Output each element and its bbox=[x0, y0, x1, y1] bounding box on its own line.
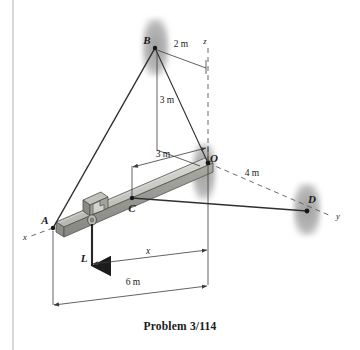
dim-3m-beam-label: 3 m bbox=[156, 149, 171, 159]
axis-label-z: z bbox=[202, 36, 207, 46]
dim-6m-line bbox=[54, 286, 207, 305]
point-label-d: D bbox=[307, 193, 316, 205]
coordinate-axes bbox=[31, 48, 331, 236]
point-c-marker bbox=[130, 196, 134, 200]
beam-top-face bbox=[56, 158, 213, 227]
axis-label-x: x bbox=[22, 232, 27, 242]
point-label-o: O bbox=[210, 152, 218, 164]
dim-x-label: x bbox=[145, 246, 151, 256]
wall-patch-group bbox=[142, 18, 321, 236]
hook-pulley-hub bbox=[90, 218, 93, 222]
load-label: L bbox=[80, 252, 88, 264]
point-a-marker bbox=[51, 226, 55, 230]
axis-x-line bbox=[31, 228, 53, 236]
cable-b-to-o bbox=[155, 48, 208, 163]
point-d-marker bbox=[305, 209, 310, 214]
dim-6m-group bbox=[53, 231, 208, 305]
dim-4m-label: 4 m bbox=[245, 168, 260, 178]
axis-label-y: y bbox=[335, 211, 340, 221]
dim-2m-label: 2 m bbox=[174, 39, 189, 49]
point-label-c: C bbox=[128, 202, 136, 214]
point-b-marker bbox=[153, 46, 157, 50]
point-label-a: A bbox=[40, 214, 48, 226]
dim-6m-label: 6 m bbox=[126, 277, 141, 287]
problem-figure: 2 m 3 m 3 m 4 m x 6 m A B C D O L x y z bbox=[0, 0, 360, 350]
figure-caption: Problem 3/114 bbox=[0, 320, 360, 332]
cable-c-to-d bbox=[132, 198, 307, 211]
point-label-b: B bbox=[142, 34, 150, 46]
dim-3m-vertical-label: 3 m bbox=[160, 95, 175, 105]
